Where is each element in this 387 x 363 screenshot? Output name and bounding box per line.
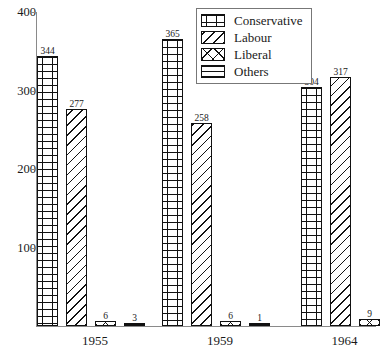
bar-1955-labour: 277 (66, 109, 87, 326)
legend-label: Liberal (234, 48, 272, 61)
bar-1959-labour: 258 (191, 123, 212, 326)
bar-value-label: 6 (228, 311, 233, 321)
bar-1959-conservative: 365 (162, 39, 183, 326)
y-tick-mark (30, 12, 36, 13)
bar-value-label: 6 (103, 311, 108, 321)
bar-1955-conservative: 344 (37, 56, 58, 326)
bar-1964-liberal: 9 (359, 319, 380, 326)
y-tick-mark (30, 91, 36, 92)
x-axis-line (36, 326, 376, 327)
bar-value-label: 365 (165, 29, 179, 39)
legend-swatch-brick (201, 14, 225, 27)
legend-item-labour: Labour (201, 29, 303, 46)
legend-item-others: Others (201, 63, 303, 80)
legend-label: Others (234, 65, 269, 78)
bar-1959-others: 1 (249, 323, 270, 326)
legend-swatch-horizontal (201, 65, 225, 78)
bar-value-label: 277 (69, 99, 83, 109)
legend-item-conservative: Conservative (201, 12, 303, 29)
legend-swatch-crosshatch (201, 48, 225, 61)
legend-label: Conservative (234, 14, 303, 27)
chart-legend: ConservativeLabourLiberalOthers (196, 8, 312, 84)
bar-1955-liberal: 6 (95, 321, 116, 326)
bar-1964-labour: 317 (330, 77, 351, 326)
bar-chart: 100200300400 34427763365258613043179 195… (0, 0, 387, 363)
bar-value-label: 3 (132, 313, 137, 323)
bar-value-label: 258 (194, 113, 208, 123)
legend-item-liberal: Liberal (201, 46, 303, 63)
bar-1955-others: 3 (124, 323, 145, 326)
y-tick-mark (30, 248, 36, 249)
category-label-1959: 1959 (162, 334, 278, 348)
bar-group-1955: 34427763 (37, 12, 153, 326)
category-label-1964: 1964 (301, 334, 387, 348)
bar-value-label: 1 (257, 313, 262, 323)
bar-value-label: 317 (333, 67, 347, 77)
y-tick-mark (30, 169, 36, 170)
bar-1959-liberal: 6 (220, 321, 241, 326)
legend-swatch-diagonal (201, 31, 225, 44)
bar-value-label: 9 (367, 309, 372, 319)
bar-group-1964: 3043179 (301, 12, 387, 326)
category-label-1955: 1955 (37, 334, 153, 348)
legend-label: Labour (234, 31, 272, 44)
bar-1964-conservative: 304 (301, 87, 322, 326)
bar-value-label: 344 (40, 46, 54, 56)
